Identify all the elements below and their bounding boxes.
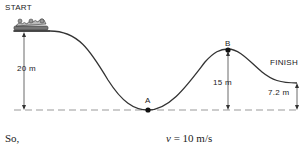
height-label-finish: 7.2 m bbox=[268, 88, 290, 97]
height-label-start: 20 m bbox=[17, 64, 36, 73]
track-curve bbox=[14, 31, 297, 110]
height-label-b: 15 m bbox=[213, 78, 232, 87]
velocity-equation: v = 10 m/s bbox=[166, 132, 212, 144]
caption-prefix: So, bbox=[5, 132, 19, 144]
height-arrow-finish bbox=[295, 83, 299, 110]
point-b-marker bbox=[225, 47, 230, 52]
roller-coaster-diagram: START FINISH A B 20 m 15 m 7.2 m So, v =… bbox=[0, 0, 307, 149]
track-svg bbox=[0, 0, 307, 149]
velocity-value: = 10 m/s bbox=[171, 132, 212, 144]
coaster-car-icon bbox=[13, 19, 50, 31]
point-a-marker bbox=[145, 107, 150, 112]
point-b-label: B bbox=[225, 39, 230, 48]
finish-label: FINISH bbox=[270, 58, 298, 67]
point-a-label: A bbox=[145, 96, 150, 105]
start-label: START bbox=[5, 3, 32, 12]
